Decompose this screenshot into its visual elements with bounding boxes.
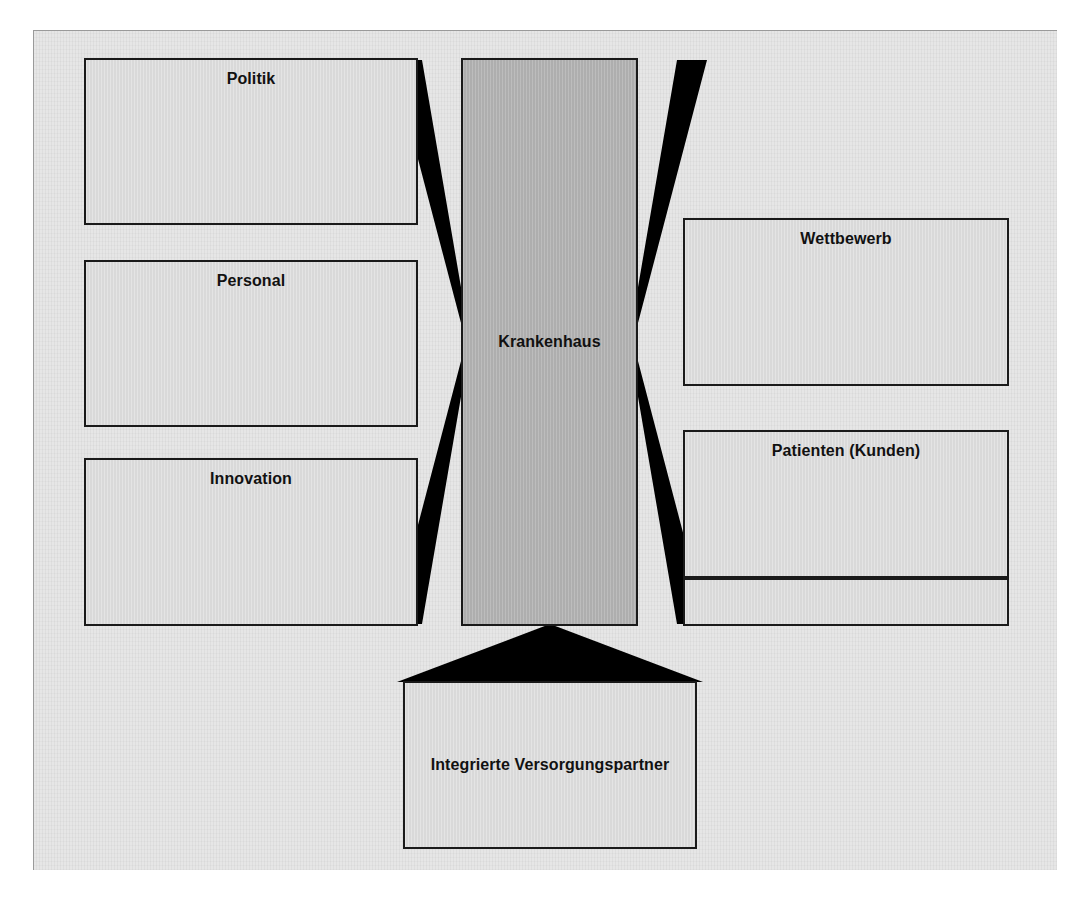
node-patienten-label: Patienten (Kunden) (685, 442, 1007, 460)
node-wettbewerb[interactable]: Wettbewerb (683, 218, 1009, 386)
node-integrierte-versorgungspartner[interactable]: Integrierte Versorgungspartner (403, 681, 697, 849)
node-innovation[interactable]: Innovation (84, 458, 418, 626)
arrow-up-icon (395, 624, 705, 684)
node-politik[interactable]: Politik (84, 58, 418, 225)
node-personal[interactable]: Personal (84, 260, 418, 427)
node-innovation-label: Innovation (86, 470, 416, 488)
node-patienten[interactable]: Patienten (Kunden) (683, 430, 1009, 578)
node-politik-label: Politik (86, 70, 416, 88)
node-krankenhaus[interactable]: Krankenhaus (461, 58, 638, 626)
node-unlabeled[interactable] (683, 578, 1009, 626)
node-wettbewerb-label: Wettbewerb (685, 230, 1007, 248)
diagram-canvas: Politik Personal Innovation Krankenhaus … (33, 30, 1057, 870)
node-personal-label: Personal (86, 272, 416, 290)
node-integrierte-versorgungspartner-label: Integrierte Versorgungspartner (405, 756, 695, 774)
scanned-page: Politik Personal Innovation Krankenhaus … (0, 0, 1087, 909)
node-krankenhaus-label: Krankenhaus (463, 333, 636, 351)
